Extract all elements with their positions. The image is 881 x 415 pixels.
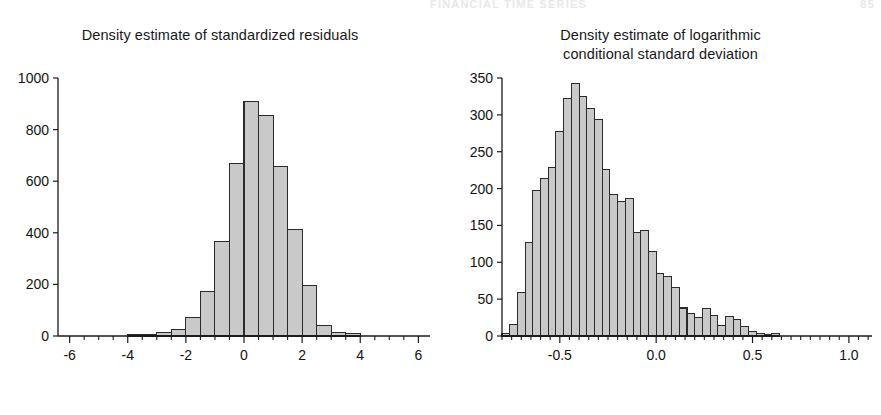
histogram-bar — [273, 166, 288, 336]
y-axis-tick-label: 600 — [26, 173, 50, 189]
y-axis-tick-label: 300 — [470, 107, 494, 123]
histogram-bar — [548, 168, 556, 336]
histogram-bar — [687, 313, 695, 336]
histogram-bar — [595, 119, 603, 336]
histogram-bar — [317, 325, 332, 336]
plot-area-left: 02004006008001000-6-4-20246 — [0, 68, 440, 388]
x-axis-tick-label: -4 — [122, 347, 135, 363]
page-running-header: FINANCIAL TIME SERIES 85 — [430, 0, 881, 10]
histogram-bar — [718, 326, 726, 336]
histogram-bar — [200, 292, 215, 336]
histogram-bar — [510, 325, 518, 336]
x-axis-tick-label: 4 — [356, 347, 364, 363]
x-axis-tick-label: 1.0 — [839, 347, 859, 363]
histogram-bar — [602, 169, 610, 336]
y-axis-tick-label: 50 — [477, 291, 493, 307]
x-axis-tick-label: 0.5 — [743, 347, 763, 363]
y-axis-tick-label: 200 — [26, 276, 50, 292]
y-axis-tick-label: 350 — [470, 70, 494, 86]
histogram-bar — [186, 318, 201, 336]
histogram-bar — [749, 332, 757, 336]
y-axis-tick-label: 150 — [470, 217, 494, 233]
x-axis-tick-label: -0.5 — [548, 347, 572, 363]
x-axis: -6-4-20246 — [58, 336, 430, 363]
histogram-bar — [541, 178, 549, 336]
y-axis-tick-label: 800 — [26, 122, 50, 138]
histogram-bar — [741, 326, 749, 336]
x-axis-tick-label: -6 — [63, 347, 76, 363]
histogram-bar — [656, 273, 664, 336]
y-axis-tick-label: 100 — [470, 254, 494, 270]
y-axis-tick-label: 200 — [470, 181, 494, 197]
histogram-bar — [533, 191, 541, 336]
histogram-bar — [229, 163, 244, 336]
x-axis-tick-label: 6 — [414, 347, 422, 363]
chart-title-left: Density estimate of standardized residua… — [0, 22, 440, 45]
chart-title-right: Density estimate of logarithmic conditio… — [440, 22, 881, 64]
histogram-bar — [215, 242, 230, 336]
y-axis: 02004006008001000 — [18, 70, 58, 344]
histogram-bar — [710, 315, 718, 336]
histogram-bar — [579, 96, 587, 336]
histogram-bar — [171, 329, 186, 336]
page-header-text: FINANCIAL TIME SERIES — [430, 0, 587, 10]
y-axis-tick-label: 1000 — [18, 70, 49, 86]
chart-title-right-line-1: Density estimate of logarithmic — [440, 26, 881, 45]
x-axis: -0.50.00.51.0 — [502, 336, 872, 363]
histogram-bar — [679, 308, 687, 336]
histogram-bar — [702, 309, 710, 336]
histogram-bar — [610, 194, 618, 336]
chart-title-left-line-1: Density estimate of standardized residua… — [0, 26, 440, 45]
histogram-bar — [726, 316, 734, 336]
y-axis-tick-label: 0 — [41, 328, 49, 344]
y-axis-tick-label: 400 — [26, 225, 50, 241]
histogram-bar — [302, 285, 317, 336]
histogram-bar — [695, 318, 703, 336]
histogram-bar — [633, 233, 641, 336]
plot-area-right: 050100150200250300350-0.50.00.51.0 — [440, 68, 881, 388]
histogram-left: 02004006008001000-6-4-20246 — [0, 68, 440, 388]
histogram-bar — [672, 287, 680, 336]
histogram-bar — [571, 84, 579, 336]
histogram-right: 050100150200250300350-0.50.00.51.0 — [440, 68, 881, 388]
histogram-bar — [244, 101, 259, 336]
histogram-bar — [564, 99, 572, 336]
y-axis-tick-label: 0 — [485, 328, 493, 344]
bars-group — [502, 84, 780, 336]
histogram-bar — [525, 242, 533, 336]
x-axis-tick-label: -2 — [180, 347, 193, 363]
histogram-bar — [556, 132, 564, 336]
x-axis-tick-label: 2 — [298, 347, 306, 363]
y-axis-tick-label: 250 — [470, 144, 494, 160]
histogram-bar — [288, 230, 303, 336]
page-canvas: FINANCIAL TIME SERIES 85 Density estimat… — [0, 0, 881, 415]
page-folio-number: 85 — [860, 0, 875, 9]
histogram-bar — [259, 115, 274, 336]
histogram-bar — [648, 251, 656, 336]
chart-title-right-line-2: conditional standard deviation — [440, 45, 881, 64]
histogram-bar — [618, 201, 626, 336]
histogram-bar — [664, 276, 672, 336]
figure-panel-left: Density estimate of standardized residua… — [0, 14, 440, 414]
x-axis-tick-label: 0.0 — [646, 347, 666, 363]
histogram-bar — [733, 320, 741, 336]
histogram-bar — [641, 231, 649, 336]
histogram-bar — [587, 109, 595, 336]
x-axis-tick-label: 0 — [240, 347, 248, 363]
figure-panel-right: Density estimate of logarithmic conditio… — [440, 14, 881, 414]
histogram-bar — [625, 199, 633, 336]
bars-group — [128, 101, 361, 336]
histogram-bar — [517, 293, 525, 336]
y-axis: 050100150200250300350 — [470, 70, 502, 344]
